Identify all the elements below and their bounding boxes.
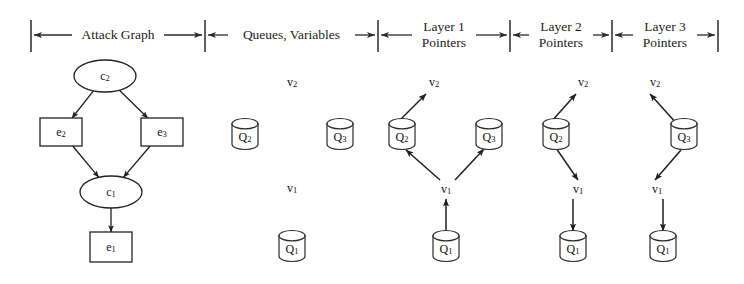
attack-graph-node-e2[interactable]: e2 [40, 118, 82, 146]
attack-graph-edge-c2-to-e2 [72, 91, 93, 118]
cylinder-top [671, 119, 697, 129]
variable-label-layer-1-pointers-v1: v1 [441, 182, 451, 196]
queue-cylinder-layer-2-pointers-Q1[interactable]: Q1 [560, 231, 586, 262]
diagram-svg: Attack GraphQueues, VariablesLayer 1Poin… [0, 0, 744, 284]
section-label-layer-3-pointers-line2: Pointers [643, 35, 687, 50]
variable-label-layer-3-pointers-v2: v2 [650, 75, 660, 89]
cylinder-top [279, 231, 305, 241]
queue-cylinder-layer-1-pointers-Q2[interactable]: Q2 [389, 119, 415, 150]
cylinder-top [476, 119, 502, 129]
variable-label-layer-2-pointers-v1: v1 [573, 182, 583, 196]
cylinder-top [327, 119, 353, 129]
attack-graph-node-e3[interactable]: e3 [141, 118, 183, 146]
queue-cylinder-layer-1-pointers-Q3[interactable]: Q3 [476, 119, 502, 150]
section-label-layer-2-pointers: Layer 2 [540, 19, 582, 34]
cylinder-top [560, 231, 586, 241]
cylinder-top [543, 119, 569, 129]
cylinder-top [389, 119, 415, 129]
pointer-layer-3-pointers-Q3-to-v1 [655, 150, 681, 180]
pointer-layer-1-pointers-Q2-to-v2 [398, 94, 426, 122]
attack-graph-edge-c2-to-e3 [119, 90, 147, 118]
section-label-layer-1-pointers: Layer 1 [423, 19, 465, 34]
queue-cylinder-queues-variables-Q2[interactable]: Q2 [232, 119, 258, 150]
section-label-queues-variables: Queues, Variables [243, 27, 340, 42]
variable-label-layer-2-pointers-v2: v2 [578, 75, 588, 89]
figure-canvas: Attack GraphQueues, VariablesLayer 1Poin… [0, 0, 744, 284]
section-label-layer-2-pointers-line2: Pointers [539, 35, 583, 50]
panel-queue-cylinders: Q2Q3Q1Q2Q3Q1Q2Q1Q3Q1 [232, 119, 697, 262]
variable-label-layer-1-pointers-v2: v2 [429, 75, 439, 89]
queue-cylinder-queues-variables-Q1[interactable]: Q1 [279, 231, 305, 262]
cylinder-top [232, 119, 258, 129]
section-label-layer-3-pointers: Layer 3 [644, 19, 686, 34]
cylinder-top [433, 231, 459, 241]
attack-graph-edges [72, 90, 150, 232]
attack-graph-edge-e3-to-c1 [124, 146, 151, 177]
queue-cylinder-layer-1-pointers-Q1[interactable]: Q1 [433, 231, 459, 262]
pointer-layer-3-pointers-Q3-to-v2 [650, 94, 677, 124]
queue-cylinder-layer-2-pointers-Q2[interactable]: Q2 [543, 119, 569, 150]
panel-pointer-arrows [398, 94, 681, 231]
queue-cylinder-layer-3-pointers-Q3[interactable]: Q3 [671, 119, 697, 150]
pointer-layer-1-pointers-v1-to-Q3 [455, 149, 484, 180]
section-label-layer-1-pointers-line2: Pointers [422, 35, 466, 50]
cylinder-top [650, 231, 676, 241]
variable-label-layer-3-pointers-v1: v1 [652, 182, 662, 196]
queue-cylinder-layer-3-pointers-Q1[interactable]: Q1 [650, 231, 676, 262]
pointer-layer-2-pointers-Q2-to-v2 [551, 94, 576, 122]
attack-graph-node-c1[interactable]: c1 [80, 176, 142, 208]
attack-graph-node-c2[interactable]: c2 [74, 60, 136, 92]
attack-graph-nodes: c2e2e3c1e1 [40, 60, 183, 262]
queue-cylinder-queues-variables-Q3[interactable]: Q3 [327, 119, 353, 150]
attack-graph-edge-e2-to-c1 [73, 146, 99, 177]
pointer-layer-1-pointers-v1-to-Q2 [406, 150, 440, 180]
attack-graph-node-e1[interactable]: e1 [90, 232, 132, 262]
variable-label-queues-variables-v2: v2 [287, 75, 297, 89]
variable-label-queues-variables-v1: v1 [287, 181, 297, 195]
pointer-layer-2-pointers-Q2-to-v1 [556, 148, 578, 180]
section-label-attack-graph: Attack Graph [81, 27, 154, 42]
